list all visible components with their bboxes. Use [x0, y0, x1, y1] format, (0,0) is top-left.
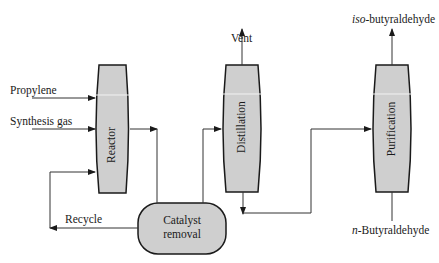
- propylene-label: Propylene: [10, 85, 57, 97]
- iso-prefix: iso: [352, 13, 365, 25]
- recycle-label: Recycle: [65, 214, 102, 226]
- distillation-to-purification-stream: [243, 129, 371, 213]
- iso-butyraldehyde-label: iso-butyraldehyde: [352, 14, 435, 26]
- synthesis-gas-label: Synthesis gas: [10, 116, 72, 128]
- catalyst-removal-line1: Catalyst: [138, 214, 226, 228]
- catalyst-removal-line2: removal: [138, 228, 226, 242]
- n-suffix: -Butyraldehyde: [358, 224, 430, 236]
- catalyst-removal-label: Catalyst removal: [138, 214, 226, 242]
- reactor-label: Reactor: [106, 127, 118, 163]
- catalyst-to-distillation-stream: [203, 129, 221, 203]
- iso-suffix: -butyraldehyde: [365, 13, 435, 25]
- distillation-label: Distillation: [236, 101, 248, 153]
- n-butyraldehyde-label: n-Butyraldehyde: [352, 225, 429, 237]
- vent-label: Vent: [231, 33, 252, 45]
- purification-label: Purification: [386, 102, 398, 156]
